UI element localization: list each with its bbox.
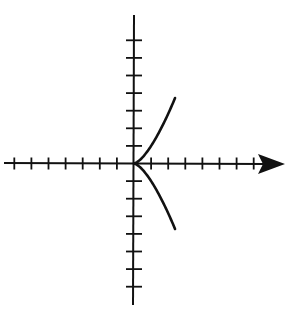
upper-branch [134,98,175,163]
axes [4,15,285,305]
lower-branch [134,164,175,229]
cusp-graph [0,0,289,320]
